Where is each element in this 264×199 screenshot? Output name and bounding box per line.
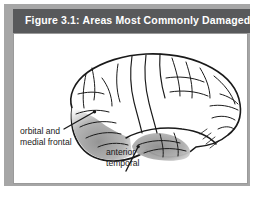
label-orbital-line-2: medial frontal: [20, 137, 72, 148]
label-orbital-medial-frontal: orbital and medial frontal: [20, 126, 72, 147]
figure-content-panel: orbital and medial frontal anterior temp…: [13, 33, 248, 184]
label-anterior-line-2: temporal: [106, 158, 139, 169]
figure-container: Figure 3.1: Areas Most Commonly Damaged: [0, 0, 264, 199]
label-anterior-temporal: anterior temporal: [106, 147, 139, 168]
figure-title: Figure 3.1: Areas Most Commonly Damaged: [25, 14, 250, 26]
label-orbital-line-1: orbital and: [20, 126, 72, 137]
figure-title-bar: Figure 3.1: Areas Most Commonly Damaged: [13, 9, 250, 33]
label-anterior-line-1: anterior: [106, 147, 139, 158]
